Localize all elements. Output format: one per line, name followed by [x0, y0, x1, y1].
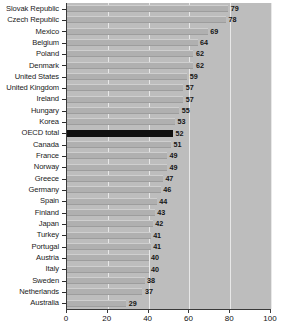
bar — [67, 254, 149, 261]
plot-area: 7978696462625957575553525149494746444342… — [66, 3, 271, 309]
bar-row: 57 — [67, 94, 271, 105]
bar-value-label: 37 — [142, 288, 153, 295]
bar-value-label: 47 — [163, 175, 174, 182]
category-label: Netherlands — [0, 286, 62, 297]
value-axis-tick — [188, 309, 189, 313]
bar — [67, 209, 155, 216]
bar — [67, 84, 183, 91]
bar-row: 44 — [67, 196, 271, 207]
bar — [67, 62, 193, 69]
bar — [67, 300, 126, 307]
bar-row: 38 — [67, 275, 271, 286]
category-label: United States — [0, 71, 62, 82]
bar-row: 46 — [67, 184, 271, 195]
bar-value-label: 49 — [167, 164, 178, 171]
category-label: Austria — [0, 252, 62, 263]
bar-value-label: 69 — [208, 28, 219, 35]
bar-row: 49 — [67, 150, 271, 161]
bar — [67, 96, 183, 103]
bar — [67, 220, 153, 227]
bar-value-label: 52 — [173, 130, 184, 137]
bar — [67, 5, 228, 12]
value-axis-tick — [107, 309, 108, 313]
bar-value-label: 29 — [126, 300, 137, 307]
category-label: Canada — [0, 139, 62, 150]
bar-row: 53 — [67, 116, 271, 127]
category-label: Portugal — [0, 241, 62, 252]
bar-row: 49 — [67, 162, 271, 173]
bar — [67, 152, 167, 159]
bar — [67, 243, 151, 250]
category-label: United Kingdom — [0, 82, 62, 93]
value-axis-line — [66, 309, 271, 310]
bar — [67, 107, 179, 114]
category-label: Australia — [0, 298, 62, 309]
bar — [67, 175, 163, 182]
bar-value-label: 40 — [149, 254, 160, 261]
bar-row: 37 — [67, 286, 271, 297]
value-axis: 020406080100 — [66, 309, 271, 331]
bar-row: 29 — [67, 298, 271, 309]
category-label: Italy — [0, 264, 62, 275]
bar — [67, 164, 167, 171]
gridline — [271, 3, 272, 309]
bar-row: 42 — [67, 218, 271, 229]
bar-value-label: 51 — [171, 141, 182, 148]
bar-value-label: 78 — [226, 16, 237, 23]
bar — [67, 232, 151, 239]
category-label: France — [0, 150, 62, 161]
bar-value-label: 64 — [198, 39, 209, 46]
bar-value-label: 38 — [145, 277, 156, 284]
bar-row: 62 — [67, 60, 271, 71]
bar-value-label: 46 — [161, 186, 172, 193]
value-axis-tick — [229, 309, 230, 313]
bar-row: 43 — [67, 207, 271, 218]
bar-value-label: 55 — [179, 107, 190, 114]
category-label: Ireland — [0, 94, 62, 105]
category-label: Spain — [0, 196, 62, 207]
category-label: Hungary — [0, 105, 62, 116]
bar-row: 78 — [67, 14, 271, 25]
category-label: Japan — [0, 218, 62, 229]
bar-value-label: 41 — [151, 243, 162, 250]
category-label: OECD total — [0, 128, 62, 139]
bar — [67, 118, 175, 125]
bar-row: 69 — [67, 26, 271, 37]
category-label: Norway — [0, 162, 62, 173]
bar-value-label: 59 — [187, 73, 198, 80]
bar — [67, 39, 198, 46]
value-axis-tick-label: 0 — [64, 315, 68, 323]
value-axis-tick-label: 100 — [263, 315, 276, 323]
bar — [67, 277, 145, 284]
bar-value-label: 57 — [183, 96, 194, 103]
value-axis-tick-label: 40 — [143, 315, 152, 323]
category-label: Germany — [0, 184, 62, 195]
category-label: Mexico — [0, 26, 62, 37]
category-axis-labels: Slovak RepublicCzech RepublicMexicoBelgi… — [0, 3, 62, 309]
bar-row: 57 — [67, 82, 271, 93]
bar-row: 55 — [67, 105, 271, 116]
bar-value-label: 42 — [153, 220, 164, 227]
bar-row: 40 — [67, 264, 271, 275]
bar — [67, 266, 149, 273]
bar — [67, 16, 226, 23]
bar-row: 40 — [67, 252, 271, 263]
bar-row: 62 — [67, 48, 271, 59]
bar-value-label: 62 — [193, 50, 204, 57]
bar-chart: Slovak RepublicCzech RepublicMexicoBelgi… — [0, 0, 285, 331]
category-label: Finland — [0, 207, 62, 218]
value-axis-tick-label: 60 — [184, 315, 193, 323]
category-label: Sweden — [0, 275, 62, 286]
bar-value-label: 53 — [175, 118, 186, 125]
bar-row: 64 — [67, 37, 271, 48]
bar-row: 59 — [67, 71, 271, 82]
bar — [67, 288, 142, 295]
category-label: Korea — [0, 116, 62, 127]
bar — [67, 50, 193, 57]
value-axis-tick — [66, 309, 67, 313]
value-axis-tick-label: 80 — [225, 315, 234, 323]
value-axis-tick — [148, 309, 149, 313]
bar-value-label: 62 — [193, 62, 204, 69]
bar — [67, 186, 161, 193]
bar — [67, 141, 171, 148]
